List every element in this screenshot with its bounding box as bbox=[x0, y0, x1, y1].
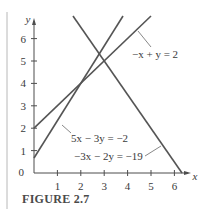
y-tick-label: 2 bbox=[21, 122, 27, 134]
leader-line-3 bbox=[145, 146, 161, 156]
x-axis-arrow-icon bbox=[184, 171, 191, 175]
x-tick-label: 3 bbox=[101, 180, 107, 192]
figure-canvas: 1 2 3 4 5 6 0 1 2 3 4 5 6 y x −x + y = 2… bbox=[0, 0, 209, 209]
equation-label-3: −3x − 2y = −19 bbox=[74, 150, 143, 162]
x-tick-label: 2 bbox=[78, 180, 84, 192]
origin-label: 0 bbox=[19, 166, 25, 178]
figure-caption: FIGURE 2.7 bbox=[22, 192, 90, 206]
equation-label-1: −x + y = 2 bbox=[132, 48, 178, 60]
y-tick-label: 5 bbox=[21, 55, 27, 67]
y-tick-label: 6 bbox=[21, 33, 27, 45]
line-neg-x-plus-y-eq-2 bbox=[34, 16, 151, 128]
y-tick-label: 3 bbox=[21, 100, 27, 112]
x-axis-label: x bbox=[192, 170, 198, 182]
leader-line-2 bbox=[62, 125, 71, 133]
y-axis-label: y bbox=[25, 13, 31, 25]
equation-label-2: 5x − 3y = −2 bbox=[71, 132, 128, 144]
x-tick-label: 4 bbox=[125, 180, 131, 192]
y-tick-label: 1 bbox=[21, 145, 27, 157]
x-tick-label: 1 bbox=[55, 180, 61, 192]
y-tick-label: 4 bbox=[21, 77, 27, 89]
leader-line-1 bbox=[138, 31, 151, 47]
x-tick-label: 6 bbox=[172, 180, 178, 192]
y-axis-arrow-icon bbox=[32, 18, 36, 25]
x-tick-label: 5 bbox=[148, 180, 154, 192]
